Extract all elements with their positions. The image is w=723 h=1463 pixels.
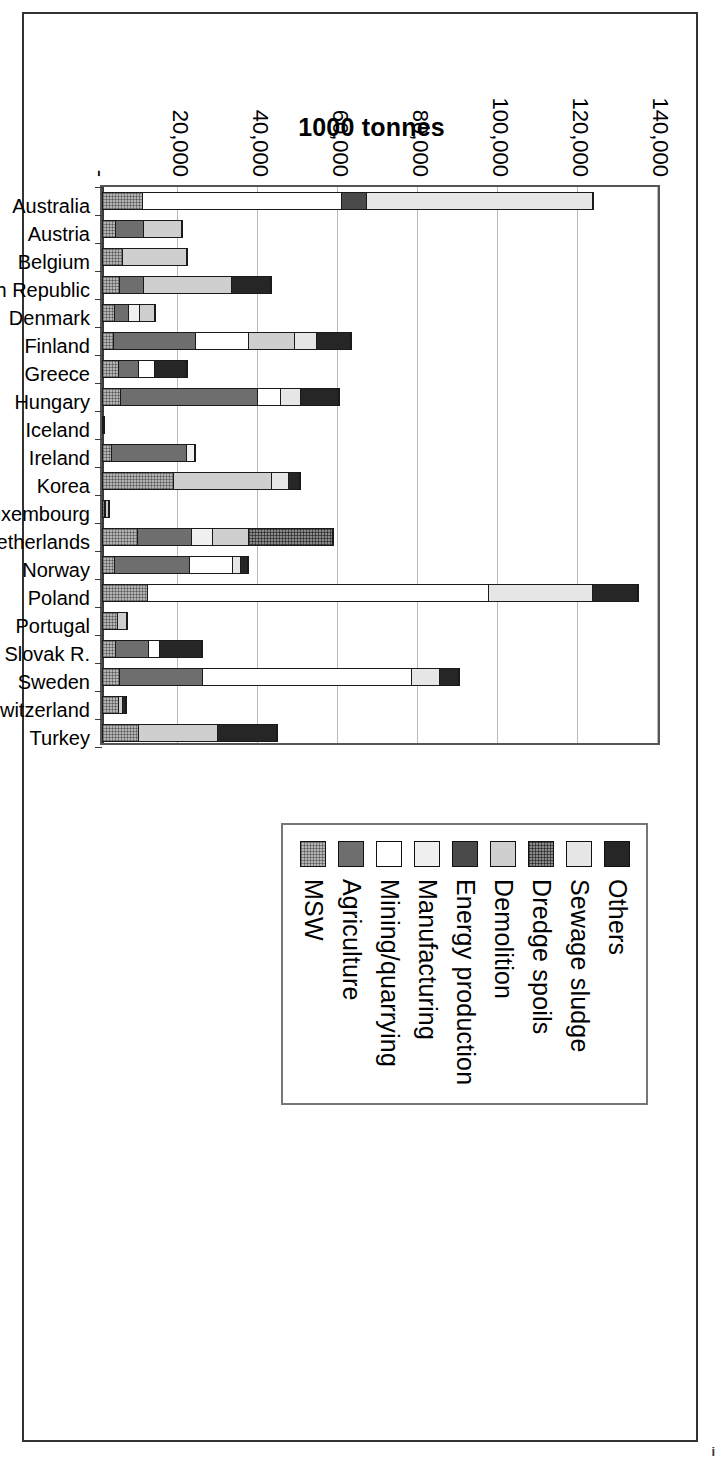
legend-items: OthersSewage sludgeDredge spoilsDemoliti… — [299, 841, 632, 1085]
category-label: Portugal — [15, 614, 90, 637]
bar-segment-msw — [103, 501, 105, 516]
bar-segment-mining — [195, 333, 248, 348]
gridline — [657, 187, 658, 743]
category-axis-tick — [95, 663, 102, 664]
bar-segment-mining — [258, 389, 280, 404]
category-axis-tick — [95, 355, 102, 356]
bar-segment-others — [317, 333, 351, 348]
bar-segment-msw — [103, 641, 116, 656]
bar-segment-msw — [103, 249, 123, 264]
white-swatch — [376, 841, 402, 867]
legend-item-label: MSW — [299, 879, 328, 941]
category-label: Greece — [24, 362, 90, 385]
bar-luxembourg — [102, 500, 110, 517]
bar-segment-others — [289, 473, 300, 488]
value-axis-tick-label: 80,000 — [407, 109, 433, 176]
legend-item-label: Others — [603, 879, 632, 955]
category-axis-tick — [95, 243, 102, 244]
category-axis-tick — [95, 579, 102, 580]
bar-segment-agriculture — [115, 221, 144, 236]
bar-segment-msw — [103, 473, 174, 488]
mid-light-gray-swatch — [490, 841, 516, 867]
bar-segment-agriculture — [138, 529, 191, 544]
category-label: Norway — [22, 558, 90, 581]
bar-segment-mining — [143, 193, 342, 208]
bar-segment-mining — [189, 557, 232, 572]
bar-segment-sewage — [232, 557, 241, 572]
category-label: Austria — [27, 222, 89, 245]
category-label: Sweden — [17, 670, 89, 693]
bar-segment-mining — [138, 361, 154, 376]
value-axis-tick-label: - — [87, 169, 113, 176]
near-white-swatch — [414, 841, 440, 867]
bar-iceland — [102, 416, 105, 433]
bar-segment-mining — [148, 585, 489, 600]
value-axis-tick-label: 120,000 — [567, 97, 593, 177]
legend-item: Mining/quarrying — [375, 841, 404, 1085]
category-label: Belgium — [17, 250, 89, 273]
light-gray-swatch — [566, 841, 592, 867]
bar-segment-demolition — [139, 305, 155, 320]
bar-hungary — [102, 388, 340, 405]
category-label: Turkey — [29, 726, 89, 749]
page-artifact-mark: i — [711, 1444, 715, 1459]
bar-segment-sewage — [271, 473, 288, 488]
gridline — [177, 187, 178, 743]
category-label: Hungary — [14, 390, 90, 413]
legend-item-label: Mining/quarrying — [375, 879, 404, 1067]
plot-area — [100, 185, 660, 745]
bar-segment-others — [241, 557, 248, 572]
bar-denmark — [102, 304, 156, 321]
category-label: Iceland — [25, 418, 90, 441]
bar-portugal — [102, 612, 128, 629]
bar-segment-msw — [103, 333, 114, 348]
gridline — [577, 187, 578, 743]
category-axis-tick — [95, 327, 102, 328]
bar-czech-republic — [102, 276, 272, 293]
category-label: Poland — [27, 586, 89, 609]
bar-segment-manufacturing — [191, 529, 212, 544]
bar-ireland — [102, 444, 196, 461]
rotated-figure-stage: 1000 tonnes -20,00040,00060,00080,000100… — [38, 33, 686, 1431]
category-axis-line — [102, 187, 104, 743]
legend-item-label: Sewage sludge — [565, 879, 594, 1053]
bar-segment-energy — [342, 193, 367, 208]
bar-segment-demolition — [144, 221, 182, 236]
bar-austria — [102, 220, 183, 237]
bar-segment-others — [217, 725, 276, 740]
legend-item: Sewage sludge — [565, 841, 594, 1085]
category-label: Finland — [24, 334, 90, 357]
gridline — [257, 187, 258, 743]
legend-item-label: Dredge spoils — [527, 879, 556, 1034]
bar-segment-msw — [103, 669, 120, 684]
category-axis-tick — [95, 383, 102, 384]
legend-item: Dredge spoils — [527, 841, 556, 1085]
bar-segment-agriculture — [113, 333, 195, 348]
bar-segment-sewage — [411, 669, 439, 684]
category-axis-tick — [95, 635, 102, 636]
legend-item: Demolition — [489, 841, 518, 1085]
legend-item-label: Energy production — [451, 879, 480, 1085]
category-axis-tick — [95, 691, 102, 692]
legend-item-label: Agriculture — [337, 879, 366, 1001]
bar-segment-agriculture — [114, 305, 129, 320]
legend-item: Agriculture — [337, 841, 366, 1085]
legend-item: Others — [603, 841, 632, 1085]
bar-norway — [102, 556, 249, 573]
bar-segment-agriculture — [116, 641, 149, 656]
value-axis-tick-label: 140,000 — [647, 97, 673, 177]
category-label: Luxembourg — [0, 502, 90, 525]
value-axis-tick-labels: -20,00040,00060,00080,000100,000120,0001… — [100, 79, 660, 183]
legend-item: Energy production — [451, 841, 480, 1085]
category-axis-tick — [95, 607, 102, 608]
legend-item: Manufacturing — [413, 841, 442, 1085]
bar-segment-agriculture — [120, 277, 144, 292]
bar-segment-agriculture — [111, 445, 186, 460]
value-axis-tick-label: 60,000 — [327, 109, 353, 176]
bar-segment-others — [593, 585, 638, 600]
bar-finland — [102, 332, 352, 349]
bar-segment-demolition — [117, 613, 127, 628]
bar-segment-msw — [103, 417, 104, 432]
category-axis-tick — [95, 271, 102, 272]
legend-item-label: Demolition — [489, 879, 518, 999]
